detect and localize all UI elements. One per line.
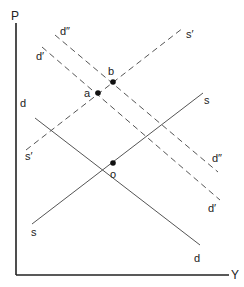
supply-demand-diagram: P Y ddd′d′d″d″sss′s′ abo — [0, 0, 244, 287]
equilibrium-point-b — [110, 79, 116, 85]
curves-group: ddd′d′d″d″sss′s′ — [20, 25, 222, 264]
point-label-o: o — [110, 168, 116, 180]
point-label-a: a — [84, 87, 91, 99]
equilibrium-point-o — [110, 160, 116, 166]
quantity-axis-label: Y — [231, 268, 239, 282]
curve-d1 — [42, 47, 220, 200]
curve-d2-label-start: d″ — [60, 25, 70, 37]
curve-d-label-end: d — [194, 252, 200, 264]
curve-d2-label-end: d″ — [212, 152, 222, 164]
points-group: abo — [84, 65, 116, 180]
price-axis-label: P — [11, 9, 19, 23]
equilibrium-point-a — [95, 90, 101, 96]
curve-s1-label-end: s′ — [186, 28, 194, 40]
curve-s1 — [26, 28, 183, 150]
curve-d-label-start: d — [20, 97, 26, 109]
curve-s1-label-start: s′ — [25, 150, 33, 162]
point-label-b: b — [108, 65, 114, 77]
curve-d2 — [55, 35, 218, 172]
curve-s-label-start: s — [31, 226, 37, 238]
curve-s — [32, 93, 203, 224]
curve-s-label-end: s — [204, 94, 210, 106]
curve-d — [35, 118, 200, 245]
curve-d1-label-end: d′ — [208, 202, 216, 214]
curve-d1-label-start: d′ — [36, 50, 44, 62]
